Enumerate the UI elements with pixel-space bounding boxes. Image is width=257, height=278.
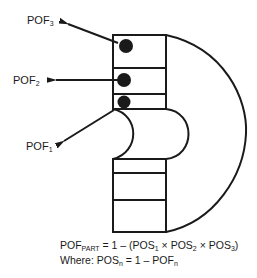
lower-cell-2 [113, 173, 166, 200]
right-notch-curve [166, 109, 189, 159]
label-pof1-base: POF [26, 140, 49, 152]
failure-site-1-dot [118, 96, 131, 109]
formula-eq: = 1 – ( [100, 239, 133, 251]
label-pof2-sub: 2 [36, 80, 40, 87]
label-pof1-sub: 1 [49, 146, 53, 153]
formula-line-1: POFPART = 1 – (POS1 × POS2 × POS3) [60, 239, 238, 255]
formula-lhs: POF [60, 239, 82, 251]
lower-cell-3 [113, 200, 166, 232]
failure-site-3-dot [119, 39, 133, 53]
label-pof2-base: POF [13, 74, 36, 86]
lower-cell-1 [113, 159, 166, 173]
formula-term-1: POS [133, 239, 155, 251]
label-pof2: POF2 [13, 74, 40, 90]
formula2-prefix: Where: [60, 254, 97, 266]
arrow-pof3 [68, 24, 118, 43]
label-pof3: POF3 [27, 14, 54, 30]
label-pof3-sub: 3 [50, 20, 54, 27]
part-diagram [0, 0, 257, 278]
formula2-lhs: POS [97, 254, 119, 266]
formula2-rhs: POF [152, 254, 174, 266]
label-pof3-base: POF [27, 14, 50, 26]
failure-site-2-dot [117, 73, 131, 87]
formula-close: ) [235, 239, 239, 251]
failure-site-3-cell [113, 35, 166, 68]
formula-times-2: × [197, 239, 209, 251]
formula2-eq: = 1 – [123, 254, 152, 266]
label-pof1: POF1 [26, 140, 53, 156]
outer-arc [166, 35, 246, 232]
formula-lhs-sub: PART [82, 245, 100, 252]
formula-term-3: POS [209, 239, 231, 251]
arrow-pof1 [64, 110, 114, 141]
formula2-rhs-sub: n [174, 260, 178, 267]
formula-term-2: POS [171, 239, 193, 251]
left-notch-curve [113, 109, 133, 159]
formula-line-2: Where: POSn = 1 – POFn [60, 254, 178, 270]
formula-times-1: × [159, 239, 171, 251]
